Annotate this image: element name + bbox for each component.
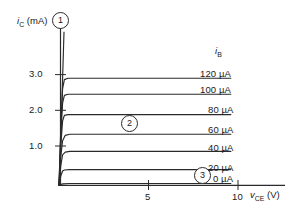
callout-3: 3 — [194, 167, 211, 184]
curve-label-0ua: 0 µA — [213, 174, 233, 184]
y-tick-label-1: 1.0 — [29, 141, 43, 151]
x-tick-label-10: 10 — [232, 192, 243, 202]
y-tick-label-2: 2.0 — [29, 105, 43, 115]
callout-1: 1 — [52, 12, 69, 29]
curve-label-100ua: 100 µA — [200, 85, 231, 95]
axes-group — [55, 16, 285, 190]
curves-group — [59, 32, 231, 186]
curve-label-60ua: 60 µA — [208, 125, 234, 135]
x-tick-label-5: 5 — [145, 192, 150, 202]
plot-area — [0, 0, 304, 216]
x-axis-label: vCE (V) — [250, 190, 280, 202]
transistor-output-characteristics-figure: iC (mA) vCE (V) 3.0 2.0 1.0 5 10 iB 120 … — [0, 0, 304, 216]
legend-header: iB — [215, 46, 222, 58]
curve-label-40ua: 40 µA — [208, 143, 234, 153]
curve-label-20ua: 20 µA — [208, 163, 234, 173]
curve-label-120ua: 120 µA — [200, 69, 231, 79]
callout-2: 2 — [121, 115, 138, 132]
curve-label-80ua: 80 µA — [208, 105, 234, 115]
y-tick-label-3: 3.0 — [29, 69, 43, 79]
y-axis-label: iC (mA) — [17, 16, 47, 28]
